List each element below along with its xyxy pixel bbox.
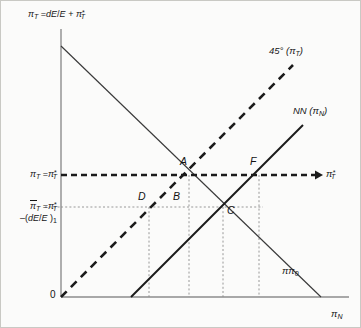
curve-label-pipi0: ππ0 [282,265,299,277]
right-axis-label-pi-star-T: π*T [326,168,335,180]
x-axis-label-pi-N: πN [331,308,342,320]
point-label-F: F [250,155,256,167]
tick-label-pi-T-equals-pi-star-T: πT =π*T [7,169,57,182]
point-label-A: A [180,155,187,167]
pipi0-curve [61,46,321,297]
NN-curve [131,125,303,297]
origin-label: 0 [50,289,56,302]
economics-diagram: πT =dE/E + π*T πT =π*T πT =π*T –(dE/E )1… [0,0,361,328]
y-axis-label: πT =dE/E + π*T [28,9,85,22]
curve-label-forty-five-degree: 45° (πT) [269,45,303,57]
point-label-C: C [227,204,235,216]
tick-label-pi-bar-T-line2: –(dE/E )1 [3,213,57,225]
curve-label-NN: NN (πN) [293,105,327,117]
point-label-B: B [173,190,180,202]
forty-five-degree-line [61,65,293,297]
pi-star-T-arrowhead [315,171,323,180]
point-label-D: D [138,190,146,202]
tick-label-pi-bar-T-line1: πT =π*T [3,201,57,214]
